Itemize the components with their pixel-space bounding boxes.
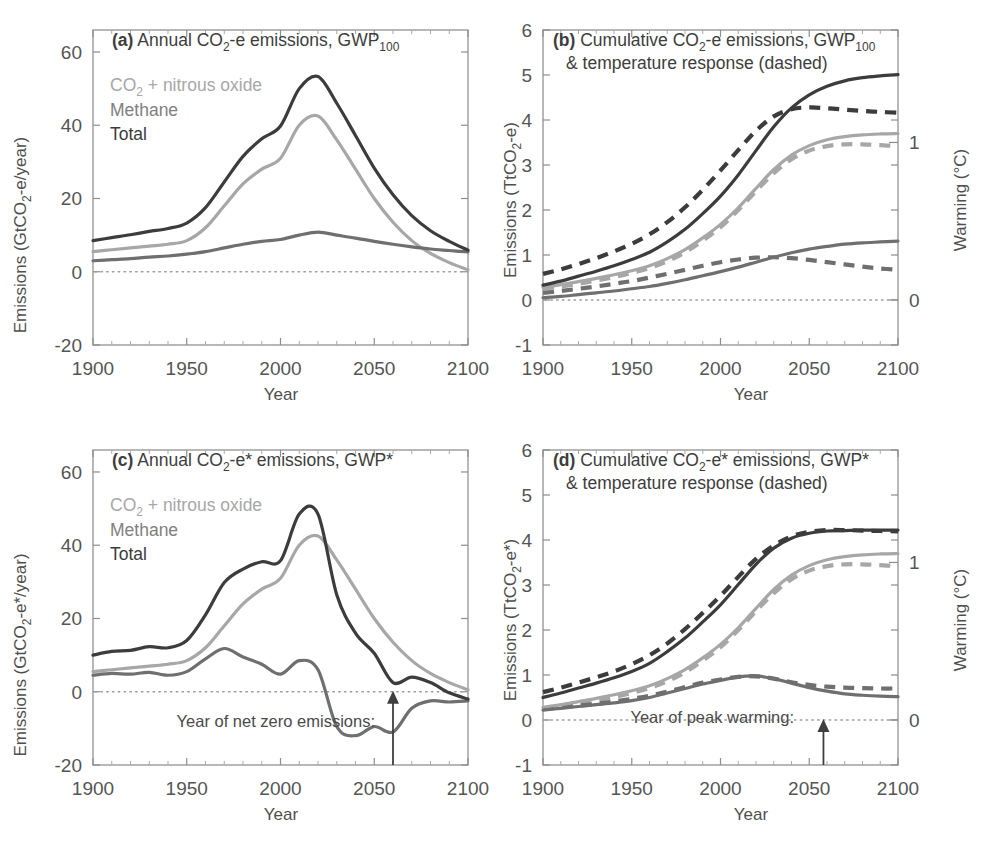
x-tick-label: 1900	[522, 358, 564, 379]
legend-item-co2-n2o: CO2 + nitrous oxide	[110, 495, 262, 519]
series-line-methane-warming	[543, 257, 898, 293]
panel-c-legend: CO2 + nitrous oxide Methane Total	[110, 495, 262, 564]
y-tick-label: 6	[521, 440, 532, 461]
x-tick-label: 2050	[353, 358, 395, 379]
svg-text:& temperature response (dashed: & temperature response (dashed)	[566, 473, 828, 493]
svg-text:& temperature response (dashed: & temperature response (dashed)	[566, 53, 828, 73]
y-tick-label: 3	[521, 155, 532, 176]
svg-text:Warming (°C): Warming (°C)	[951, 569, 970, 672]
y-tick-label: 2	[521, 620, 532, 641]
panel-d: Emissions (TtCO2-e*) Warming (°C) -10123…	[496, 420, 992, 841]
y-tick-label: -20	[55, 755, 82, 776]
y-tick-label: 0	[521, 290, 532, 311]
y-tick-label: 3	[521, 575, 532, 596]
x-tick-label: 2100	[447, 358, 489, 379]
panel-b-title: (b) Cumulative CO2-e emissions, GWP100 &…	[553, 30, 876, 73]
x-tick-label: 2100	[877, 778, 919, 799]
legend-item-total: Total	[110, 124, 147, 144]
y-tick-label: 1	[521, 245, 532, 266]
panel-d-svg: Emissions (TtCO2-e*) Warming (°C) -10123…	[496, 420, 992, 841]
y-tick-label: 5	[521, 485, 532, 506]
x-tick-label: 1950	[166, 358, 208, 379]
panel-b-yaxis-right-title: Warming (°C)	[951, 149, 970, 252]
y-tick-label: 40	[61, 115, 82, 136]
x-tick-label: 1950	[166, 778, 208, 799]
y-tick-label: 4	[521, 110, 532, 131]
y-tick-label: -1	[515, 755, 532, 776]
panel-a: Emissions (GtCO2-e/year) -20020406019001…	[0, 0, 496, 420]
panel-b-xaxis-title: Year	[734, 385, 769, 404]
x-tick-label: 2050	[788, 358, 830, 379]
y-tick-label: 60	[61, 42, 82, 63]
series-line-total-cumulative	[543, 75, 898, 286]
x-tick-label: 1900	[522, 778, 564, 799]
x-tick-label: 2000	[259, 358, 301, 379]
panel-a-xaxis-title: Year	[264, 385, 299, 404]
y-tick-label: 0	[521, 710, 532, 731]
panel-d-title: (d) Cumulative CO2-e* emissions, GWP* & …	[553, 450, 869, 493]
x-tick-label: 2050	[788, 778, 830, 799]
annotation-arrowhead	[387, 691, 399, 704]
panel-c-yaxis-title: Emissions (GtCO2-e*/year)	[11, 553, 34, 756]
x-tick-label: 1900	[72, 358, 114, 379]
series-line-total-warming	[543, 530, 898, 692]
y-tick-label-right: 0	[909, 710, 920, 731]
legend-item-methane: Methane	[110, 520, 178, 540]
x-tick-label: 1950	[611, 358, 653, 379]
panel-c-title: (c) Annual CO2-e* emissions, GWP*	[112, 450, 393, 474]
x-tick-label: 2100	[447, 778, 489, 799]
y-tick-label-right: 0	[909, 290, 920, 311]
x-tick-label: 2050	[353, 778, 395, 799]
panel-a-yaxis-title: Emissions (GtCO2-e/year)	[11, 137, 34, 334]
series-line-co2-nitrous-oxide-warming	[543, 144, 898, 289]
svg-text:(c) Annual CO2-e* emissions, G: (c) Annual CO2-e* emissions, GWP*	[112, 450, 393, 474]
y-tick-label: 2	[521, 200, 532, 221]
panel-a-svg: Emissions (GtCO2-e/year) -20020406019001…	[0, 0, 496, 420]
svg-text:(a) Annual CO2-e emissions, GW: (a) Annual CO2-e emissions, GWP100	[112, 30, 400, 54]
x-tick-label: 2000	[699, 358, 741, 379]
annotation-arrowhead	[817, 719, 829, 732]
y-tick-label: 40	[61, 535, 82, 556]
svg-text:(d) Cumulative CO2-e* emission: (d) Cumulative CO2-e* emissions, GWP*	[553, 450, 869, 474]
panel-c-svg: Emissions (GtCO2-e*/year) -2002040601900…	[0, 420, 496, 841]
y-tick-label-right: 1	[909, 552, 920, 573]
panel-d-xaxis-title: Year	[734, 805, 769, 824]
panel-d-annotation-label: Year of peak warming:	[630, 708, 794, 726]
x-tick-label: 2000	[699, 778, 741, 799]
y-tick-label: 0	[71, 682, 82, 703]
y-tick-label: 60	[61, 462, 82, 483]
y-tick-label: -20	[55, 335, 82, 356]
panel-c-annotation-label: Year of net zero emissions:	[177, 712, 375, 730]
svg-text:Warming (°C): Warming (°C)	[951, 149, 970, 252]
y-tick-label: 0	[71, 262, 82, 283]
x-tick-label: 1900	[72, 778, 114, 799]
panel-c: Emissions (GtCO2-e*/year) -2002040601900…	[0, 420, 496, 841]
legend-item-methane: Methane	[110, 100, 178, 120]
y-tick-label-right: 1	[909, 132, 920, 153]
y-tick-label: 20	[61, 188, 82, 209]
y-tick-label: 4	[521, 530, 532, 551]
x-tick-label: 1950	[611, 778, 653, 799]
series-line-methane-cumulative	[543, 676, 898, 710]
svg-text:Emissions (GtCO2-e/year): Emissions (GtCO2-e/year)	[11, 137, 34, 334]
panel-a-title: (a) Annual CO2-e emissions, GWP100	[112, 30, 400, 54]
series-line-methane-cumulative	[543, 241, 898, 298]
y-tick-label: 6	[521, 20, 532, 41]
panel-a-legend: CO2 + nitrous oxide Methane Total	[110, 75, 262, 144]
panel-b-plot: -101234560119001950200020502100	[515, 20, 919, 379]
y-tick-label: -1	[515, 335, 532, 356]
x-tick-label: 2100	[877, 358, 919, 379]
y-tick-label: 1	[521, 665, 532, 686]
panel-b-svg: Emissions (TtCO2-e) Warming (°C) -101234…	[496, 0, 992, 420]
figure-container: Emissions (GtCO2-e/year) -20020406019001…	[0, 0, 992, 841]
svg-text:(b) Cumulative CO2-e emissions: (b) Cumulative CO2-e emissions, GWP100	[553, 30, 876, 54]
x-tick-label: 2000	[259, 778, 301, 799]
panel-b: Emissions (TtCO2-e) Warming (°C) -101234…	[496, 0, 992, 420]
panel-c-xaxis-title: Year	[264, 805, 299, 824]
y-tick-label: 5	[521, 65, 532, 86]
legend-item-co2-n2o: CO2 + nitrous oxide	[110, 75, 262, 99]
svg-text:Emissions (GtCO2-e*/year): Emissions (GtCO2-e*/year)	[11, 553, 34, 756]
panel-d-yaxis-right-title: Warming (°C)	[951, 569, 970, 672]
panel-d-plot: -101234560119001950200020502100	[515, 440, 919, 799]
series-line-total-warming	[543, 107, 898, 274]
